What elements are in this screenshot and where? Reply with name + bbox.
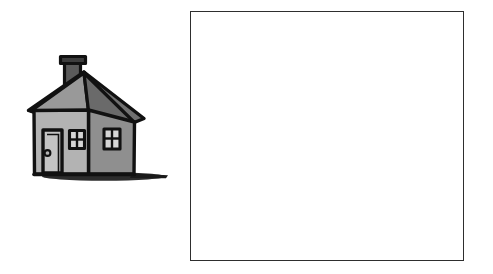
- door-knob-icon: [45, 150, 51, 156]
- chimney-cap-icon: [61, 57, 86, 64]
- house-illustration: [20, 48, 180, 188]
- page-canvas: [0, 0, 493, 274]
- house-svg: [20, 48, 180, 188]
- empty-box-content[interactable]: [191, 12, 463, 260]
- roof-gable-face-icon: [31, 73, 89, 111]
- empty-box[interactable]: [190, 11, 464, 261]
